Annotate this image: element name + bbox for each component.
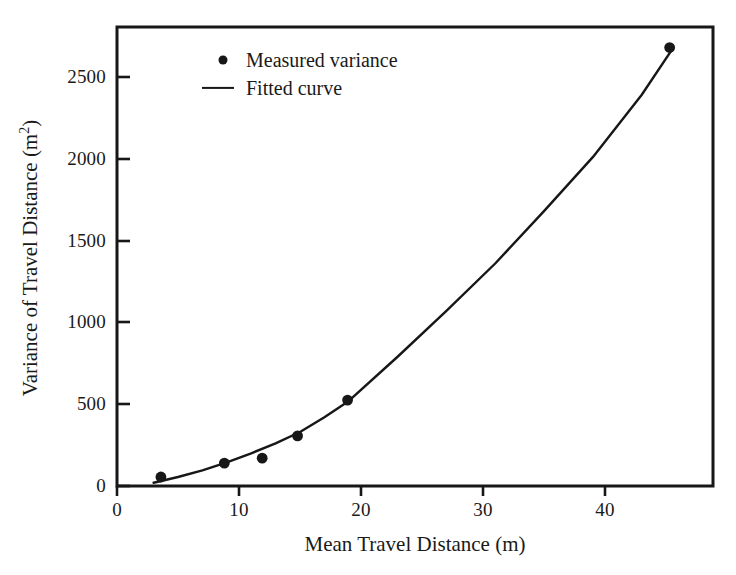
x-tick-label-20: 20	[351, 499, 370, 521]
legend-label-fitted-curve: Fitted curve	[242, 77, 342, 100]
data-point	[664, 42, 675, 53]
y-tick-label-1500: 1500	[67, 230, 106, 252]
data-point	[156, 472, 167, 483]
legend-label-measured-variance: Measured variance	[242, 49, 398, 72]
y-axis-title-tail: )	[18, 120, 42, 127]
legend-key-dot	[196, 47, 242, 73]
data-point	[219, 458, 230, 469]
fitted-curve-line	[154, 48, 674, 483]
legend-item-fitted-curve: Fitted curve	[196, 75, 342, 101]
chart-figure: 0 500 1000 1500 2000 2500 0 10 20 30 40 …	[0, 0, 736, 575]
fitted-curve-line-icon	[202, 87, 234, 89]
x-tick-label-10: 10	[229, 499, 248, 521]
data-point	[257, 453, 268, 464]
data-point	[292, 431, 303, 442]
y-tick-label-2500: 2500	[67, 66, 106, 88]
y-tick-label-0: 0	[96, 475, 106, 497]
x-tick-label-30: 30	[473, 499, 492, 521]
y-axis-title-superscript: 2	[17, 127, 32, 134]
y-tick-marks	[117, 77, 130, 486]
x-tick-label-0: 0	[112, 499, 122, 521]
measured-variance-dot-icon	[219, 56, 228, 65]
y-tick-label-500: 500	[77, 393, 106, 415]
legend-item-measured-variance: Measured variance	[196, 47, 398, 73]
x-axis-title: Mean Travel Distance (m)	[304, 532, 525, 557]
y-axis-title-text: Variance of Travel Distance (m	[18, 134, 42, 396]
y-tick-label-2000: 2000	[67, 148, 106, 170]
data-point	[342, 395, 353, 406]
y-axis-title: Variance of Travel Distance (m2)	[17, 120, 43, 396]
y-tick-label-1000: 1000	[67, 311, 106, 333]
chart-legend: Measured variance Fitted curve	[196, 47, 466, 109]
legend-key-line	[196, 75, 242, 101]
x-tick-label-40: 40	[595, 499, 614, 521]
